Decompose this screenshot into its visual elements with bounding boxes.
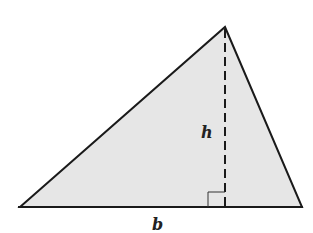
triangle-diagram: h b bbox=[0, 0, 313, 233]
base-label: b bbox=[152, 215, 163, 233]
height-label: h bbox=[201, 123, 213, 142]
triangle-shape bbox=[20, 27, 302, 207]
